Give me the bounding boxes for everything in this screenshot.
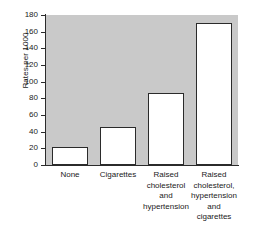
x-axis-category-label: Cigarettes — [92, 170, 144, 181]
bar — [196, 23, 232, 166]
x-axis-category-label: Raised cholesterol, hypertension and cig… — [188, 170, 240, 223]
y-axis-line — [45, 14, 46, 166]
y-axis-tick-label: 40 — [12, 128, 38, 136]
y-axis-tick — [41, 82, 45, 83]
bar-chart-figure: Rates per 1000 020406080100120140160180 … — [0, 0, 253, 232]
y-axis-tick-label: 60 — [12, 111, 38, 119]
y-axis-tick-label: 100 — [12, 78, 38, 86]
y-axis-tick — [41, 115, 45, 116]
y-axis-tick-label: 140 — [12, 44, 38, 52]
y-axis-tick — [41, 148, 45, 149]
bar — [52, 147, 88, 165]
y-axis-tick — [41, 48, 45, 49]
y-axis-tick-label: 160 — [12, 28, 38, 36]
y-axis-tick — [41, 165, 45, 166]
y-axis-tick — [41, 98, 45, 99]
y-axis-tick-label: 80 — [12, 94, 38, 102]
bar — [148, 93, 184, 165]
y-axis-tick-label: 0 — [12, 161, 38, 169]
x-axis-line — [45, 165, 239, 166]
bar — [100, 127, 136, 165]
y-axis-tick — [41, 65, 45, 66]
y-axis-tick — [41, 32, 45, 33]
x-axis-category-label: Raised cholesterol and hypertension — [140, 170, 192, 212]
x-axis-category-label: None — [44, 170, 96, 181]
y-axis-tick-label: 180 — [12, 11, 38, 19]
y-axis-tick — [41, 15, 45, 16]
y-axis-tick-label: 20 — [12, 144, 38, 152]
y-axis-tick — [41, 132, 45, 133]
y-axis-tick-label: 120 — [12, 61, 38, 69]
